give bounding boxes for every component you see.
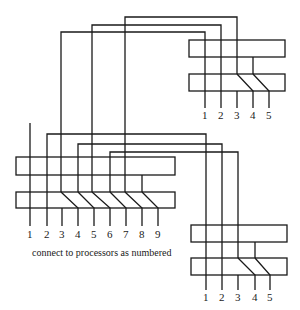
br-label-5: 5 <box>267 291 273 303</box>
wire-tr2 <box>92 25 221 160</box>
wiring-diagram: 1 2 3 4 5 1 2 3 4 5 6 7 <box>0 0 300 310</box>
tr-label-4: 4 <box>250 109 256 121</box>
wire-br2 <box>78 144 222 290</box>
left-label-4: 4 <box>75 228 81 240</box>
top-right-lower-bar <box>189 74 285 91</box>
tr-label-2: 2 <box>218 109 224 121</box>
left-label-8: 8 <box>139 228 145 240</box>
left-label-7: 7 <box>123 228 129 240</box>
br-label-3: 3 <box>235 291 241 303</box>
left-label-9: 9 <box>155 228 161 240</box>
tr-label-1: 1 <box>202 109 208 121</box>
left-label-6: 6 <box>107 228 113 240</box>
wire-tr3 <box>125 17 237 160</box>
tr-label-5: 5 <box>266 109 272 121</box>
left-upper-bar <box>16 157 175 175</box>
left-label-2: 2 <box>44 228 50 240</box>
left-block: 1 2 3 4 5 6 7 8 9 connect to processors … <box>16 123 238 290</box>
left-label-3: 3 <box>59 228 65 240</box>
left-label-5: 5 <box>91 228 97 240</box>
wire-tr1 <box>61 32 205 160</box>
top-right-block: 1 2 3 4 5 <box>61 17 285 160</box>
caption: connect to processors as numbered <box>32 247 171 258</box>
br-label-1: 1 <box>203 291 209 303</box>
br-label-2: 2 <box>219 291 225 303</box>
br-label-4: 4 <box>252 291 258 303</box>
tr-label-3: 3 <box>234 109 240 121</box>
left-label-1: 1 <box>27 228 33 240</box>
